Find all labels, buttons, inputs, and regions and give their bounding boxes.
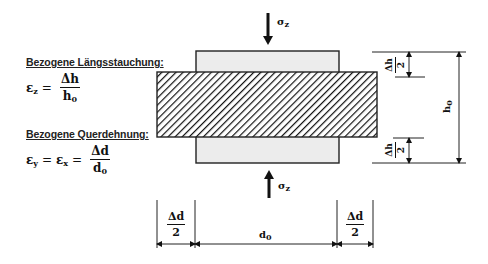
width-d0-label: d0	[259, 229, 272, 242]
dh-half-bottom-label: Δh 2	[385, 137, 407, 163]
dh-half-top-label: Δh 2	[385, 52, 407, 78]
height-h0-label: h0	[441, 100, 454, 113]
dd-half-left-label: Δd 2	[163, 211, 189, 238]
bottom-stress-label: σz	[278, 180, 290, 193]
bottom-force-arrow-icon	[264, 170, 274, 198]
top-stress-label: σz	[277, 16, 289, 29]
deformed-specimen	[157, 72, 377, 137]
top-force-arrow-icon	[263, 13, 273, 45]
dd-half-right-label: Δd 2	[342, 211, 368, 238]
compression-diagram	[0, 0, 488, 264]
